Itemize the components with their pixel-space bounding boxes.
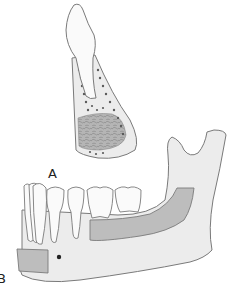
molar-2 bbox=[115, 187, 141, 212]
dental-diagram bbox=[0, 0, 233, 292]
label-a: A bbox=[48, 167, 57, 180]
graft-region-anterior bbox=[17, 249, 48, 273]
maxillary-segment bbox=[66, 4, 137, 158]
trabecular-region bbox=[78, 114, 126, 151]
mental-foramen bbox=[57, 255, 61, 259]
molar-1 bbox=[87, 187, 113, 218]
label-b: B bbox=[0, 272, 6, 285]
